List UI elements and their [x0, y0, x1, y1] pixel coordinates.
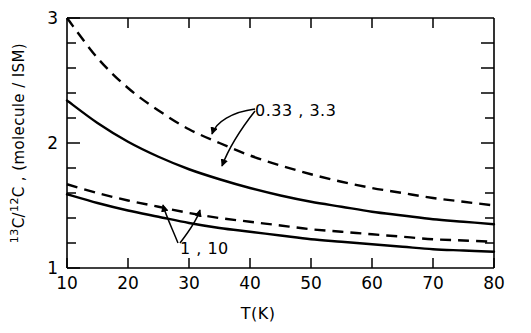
y-tick-label: 3 — [47, 8, 58, 28]
y-axis-mid: C/ — [10, 211, 28, 228]
x-tick-labels: 10 20 30 40 50 60 70 80 — [56, 273, 505, 293]
y-tick-labels: 3 2 1 — [47, 8, 58, 278]
y-tick-label: 1 — [47, 258, 58, 278]
curve-dashed-lower — [67, 184, 494, 242]
x-axis-title: T(K) — [240, 304, 276, 323]
y-tick-marks-left — [67, 18, 80, 268]
x-tick-label: 70 — [422, 273, 444, 293]
x-tick-label: 50 — [300, 273, 322, 293]
upper-leader-arrow-a — [212, 109, 255, 134]
y-axis-sup-13: 13 — [8, 228, 21, 243]
data-curves — [67, 18, 494, 252]
x-tick-marks — [67, 258, 494, 268]
y-tick-label: 2 — [47, 133, 58, 153]
y-axis-sup-12: 12 — [8, 197, 21, 212]
y-axis-title: 13C/12C , (molecule / ISM) — [8, 43, 28, 243]
curve-solid-lower — [67, 194, 494, 252]
x-tick-label: 80 — [483, 273, 505, 293]
x-tick-label: 40 — [239, 273, 261, 293]
x-tick-label: 10 — [56, 273, 78, 293]
x-tick-marks-top — [128, 18, 433, 28]
y-tick-marks-right — [481, 43, 494, 243]
x-tick-label: 20 — [117, 273, 139, 293]
svg-text:13C/12C , (molecule / ISM): 13C/12C , (molecule / ISM) — [8, 43, 28, 243]
chart-figure: 10 20 30 40 50 60 70 80 3 2 1 T(K) 13C/1… — [0, 0, 531, 333]
upper-annotation-leader — [212, 109, 255, 166]
y-axis-rest: C , (molecule / ISM) — [10, 43, 28, 197]
upper-leader-arrow-b — [222, 111, 255, 166]
x-tick-label: 30 — [178, 273, 200, 293]
upper-pair-label: 0.33 , 3.3 — [255, 101, 336, 120]
x-tick-label: 60 — [361, 273, 383, 293]
plot-area: 10 20 30 40 50 60 70 80 3 2 1 T(K) 13C/1… — [0, 0, 531, 333]
lower-pair-label: 1 , 10 — [180, 239, 229, 258]
